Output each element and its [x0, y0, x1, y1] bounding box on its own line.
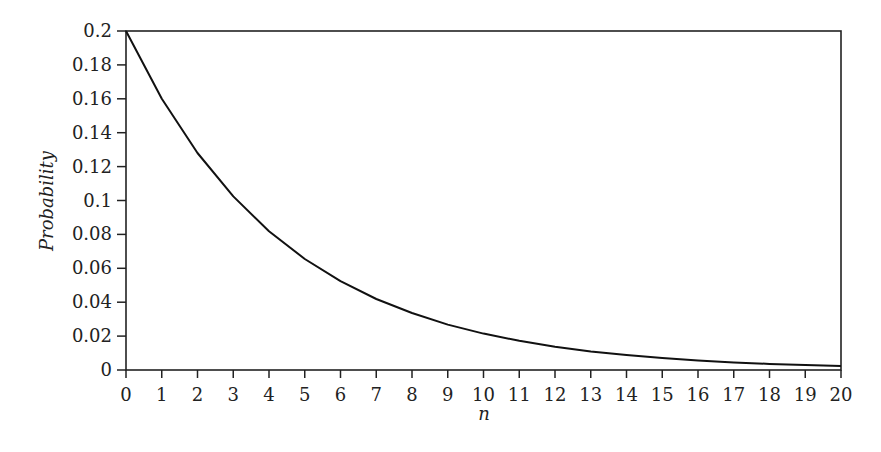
- y-tick-label: 0.04: [72, 291, 112, 312]
- x-tick-label: 11: [508, 384, 531, 405]
- x-tick-label: 19: [794, 384, 817, 405]
- x-tick-label: 2: [192, 384, 203, 405]
- x-tick-label: 7: [371, 384, 382, 405]
- y-tick-label: 0: [101, 359, 112, 380]
- x-tick-label: 12: [544, 384, 567, 405]
- x-tick-label: 20: [830, 384, 853, 405]
- x-tick-label: 3: [228, 384, 239, 405]
- y-tick-label: 0.16: [72, 88, 112, 109]
- x-tick-label: 16: [687, 384, 710, 405]
- x-tick-label: 17: [722, 384, 745, 405]
- x-tick-label: 18: [758, 384, 781, 405]
- y-tick-label: 0.1: [83, 190, 112, 211]
- x-tick-label: 15: [651, 384, 674, 405]
- y-axis-label: Probability: [36, 150, 57, 252]
- y-tick-label: 0.2: [83, 20, 112, 41]
- x-tick-label: 10: [472, 384, 495, 405]
- x-tick-label: 14: [615, 384, 638, 405]
- y-tick-label: 0.06: [72, 257, 112, 278]
- x-tick-label: 6: [335, 384, 346, 405]
- x-tick-label: 13: [579, 384, 602, 405]
- y-tick-label: 0.08: [72, 223, 112, 244]
- plot-frame: [126, 31, 841, 370]
- y-axis-ticks: 00.020.040.060.080.10.120.140.160.180.2: [72, 20, 126, 380]
- y-tick-label: 0.18: [72, 54, 112, 75]
- y-tick-label: 0.12: [72, 156, 112, 177]
- x-tick-label: 0: [120, 384, 131, 405]
- line-chart: 00.020.040.060.080.10.120.140.160.180.2 …: [0, 0, 881, 452]
- x-axis-ticks: 01234567891011121314151617181920: [120, 370, 852, 405]
- x-tick-label: 5: [299, 384, 310, 405]
- x-tick-label: 4: [263, 384, 274, 405]
- y-tick-label: 0.02: [72, 325, 112, 346]
- x-tick-label: 1: [156, 384, 167, 405]
- y-tick-label: 0.14: [72, 122, 112, 143]
- probability-curve: [126, 31, 841, 366]
- x-tick-label: 8: [406, 384, 417, 405]
- x-tick-label: 9: [442, 384, 453, 405]
- x-axis-label: n: [478, 403, 490, 424]
